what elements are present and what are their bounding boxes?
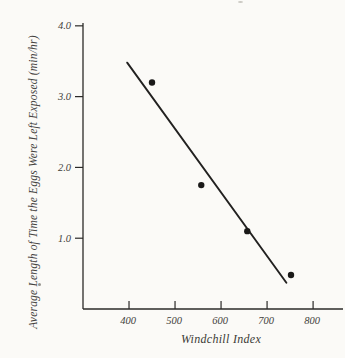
data-point: [149, 79, 155, 85]
y-axis-title: Average Length of Time the Eggs Were Lef…: [27, 17, 39, 347]
x-tick-label: 600: [212, 315, 229, 326]
scan-speck: [38, 283, 41, 286]
x-tick-label: 700: [258, 315, 275, 326]
plot-canvas: 1.02.03.04.0400500600700800: [0, 0, 345, 358]
x-tick-label: 500: [166, 315, 183, 326]
regression-line: [127, 63, 286, 283]
x-tick-label: 400: [120, 315, 137, 326]
x-tick-label: 800: [304, 315, 321, 326]
data-point: [288, 272, 294, 278]
y-tick-label: 2.0: [58, 162, 72, 173]
x-axis-title: Windchill Index: [146, 332, 296, 347]
y-tick-label: 1.0: [58, 233, 72, 244]
data-point: [244, 228, 250, 234]
y-tick-label: 4.0: [58, 20, 72, 31]
scan-speck: [238, 1, 243, 3]
scatter-plot-figure: 1.02.03.04.0400500600700800 Average Leng…: [0, 0, 345, 358]
y-tick-label: 3.0: [57, 91, 72, 102]
data-point: [198, 182, 204, 188]
